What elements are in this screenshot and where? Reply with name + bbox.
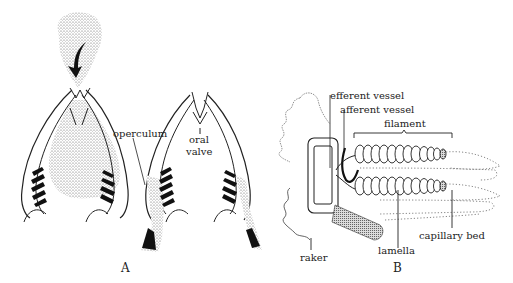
- label-operculum: operculum: [113, 129, 167, 139]
- filament-bracket: [354, 130, 452, 138]
- label-capillary-bed: capillary bed: [419, 231, 485, 241]
- label-valve: valve: [186, 147, 212, 157]
- label-oral: oral: [189, 135, 209, 145]
- panel-a-right-drawing: [133, 92, 262, 252]
- gill-raker: [332, 205, 383, 240]
- panel-b-drawing: [279, 93, 500, 250]
- operculum-leader: [133, 138, 145, 185]
- label-lamella: lamella: [378, 246, 415, 256]
- panel-a-left-drawing: [22, 12, 129, 222]
- panel-a-label: A: [121, 261, 130, 275]
- label-raker: raker: [300, 253, 328, 263]
- panel-b-label: B: [393, 261, 402, 275]
- gill-arch: [308, 138, 338, 213]
- label-afferent-vessel: afferent vessel: [340, 105, 414, 115]
- label-efferent-vessel: efferent vessel: [330, 91, 404, 101]
- label-filament: filament: [384, 119, 426, 129]
